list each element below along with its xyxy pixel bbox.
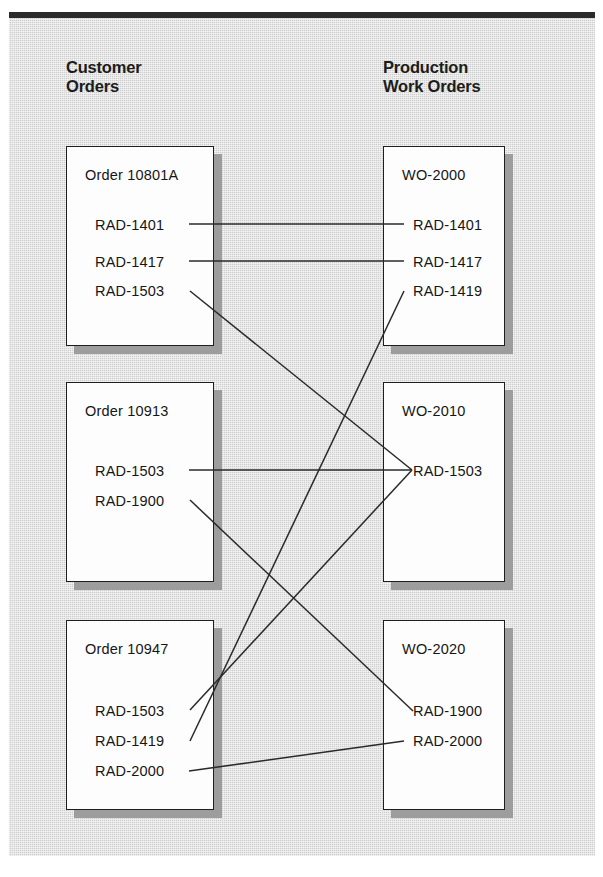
- order-card-title: Order 10947: [85, 641, 169, 657]
- column-heading-production-work-orders: Production Work Orders: [383, 58, 480, 96]
- work-order-card-title: WO-2000: [402, 167, 465, 183]
- order-line-item: RAD-1419: [95, 733, 164, 749]
- work-order-line-item: RAD-1401: [413, 217, 482, 233]
- work-order-line-item: RAD-1417: [413, 254, 482, 270]
- diagram-page: Customer Orders Production Work Orders O…: [0, 0, 603, 877]
- order-card-10947[interactable]: Order 10947 RAD-1503 RAD-1419 RAD-2000: [66, 620, 214, 810]
- order-line-item: RAD-1417: [95, 254, 164, 270]
- work-order-card-wo-2020[interactable]: WO-2020 RAD-1900 RAD-2000: [383, 620, 505, 810]
- order-line-item: RAD-1503: [95, 463, 164, 479]
- order-card-title: Order 10801A: [85, 167, 179, 183]
- order-line-item: RAD-1401: [95, 217, 164, 233]
- order-line-item: RAD-2000: [95, 763, 164, 779]
- order-card-10913[interactable]: Order 10913 RAD-1503 RAD-1900: [66, 382, 214, 582]
- work-order-line-item: RAD-1419: [413, 283, 482, 299]
- order-line-item: RAD-1503: [95, 703, 164, 719]
- work-order-card-wo-2000[interactable]: WO-2000 RAD-1401 RAD-1417 RAD-1419: [383, 146, 505, 346]
- order-card-title: Order 10913: [85, 403, 169, 419]
- order-line-item: RAD-1503: [95, 283, 164, 299]
- work-order-card-title: WO-2020: [402, 641, 465, 657]
- work-order-card-wo-2010[interactable]: WO-2010 RAD-1503: [383, 382, 505, 582]
- work-order-line-item: RAD-1503: [413, 463, 482, 479]
- work-order-line-item: RAD-1900: [413, 703, 482, 719]
- column-heading-customer-orders: Customer Orders: [66, 58, 141, 96]
- order-line-item: RAD-1900: [95, 493, 164, 509]
- order-card-10801a[interactable]: Order 10801A RAD-1401 RAD-1417 RAD-1503: [66, 146, 214, 346]
- work-order-line-item: RAD-2000: [413, 733, 482, 749]
- work-order-card-title: WO-2010: [402, 403, 465, 419]
